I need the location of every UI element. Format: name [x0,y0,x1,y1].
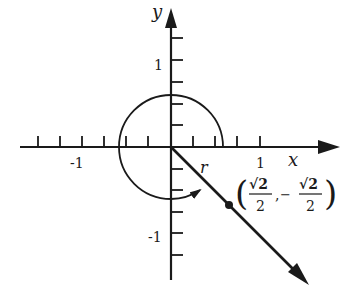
y-sign: − [280,187,291,202]
x-numerator: √2 [249,176,268,192]
paren-close: ) [324,173,337,213]
x-tick-label-neg1: -1 [70,155,84,171]
angle-label: r [200,158,209,177]
x-axis-label: x [288,149,298,170]
x-denominator: 2 [256,198,265,214]
point-coordinate-label: ( √2 2 , − √2 2 ) [235,173,337,214]
point-marker [225,201,233,209]
x-axis-arrow-icon [318,140,340,154]
diagram-canvas: y x -1 1 1 -1 r ( √2 2 , − √2 2 ) [0,0,353,297]
x-axis-ticks [38,136,260,147]
paren-open: ( [235,173,248,213]
separator: , [275,187,279,203]
y-numerator: √2 [299,176,318,192]
y-tick-label-1: 1 [154,57,163,73]
unit-circle-diagram: y x -1 1 1 -1 r ( √2 2 , − √2 2 ) [0,0,353,297]
y-tick-label-neg1: -1 [148,229,162,245]
y-denominator: 2 [306,198,315,214]
y-axis-arrow-icon [165,8,177,28]
y-axis-label: y [151,1,163,22]
x-tick-label-1: 1 [256,155,265,171]
